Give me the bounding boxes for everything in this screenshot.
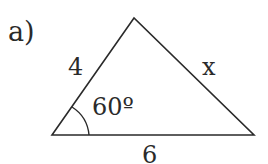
side-left-label: 4 (68, 55, 83, 79)
angle-label: 60º (92, 95, 134, 119)
side-bottom-label: 6 (142, 143, 157, 164)
side-right-label: x (202, 55, 216, 79)
triangle-figure (0, 0, 268, 164)
problem-label: a) (8, 18, 35, 45)
angle-arc (72, 107, 89, 135)
